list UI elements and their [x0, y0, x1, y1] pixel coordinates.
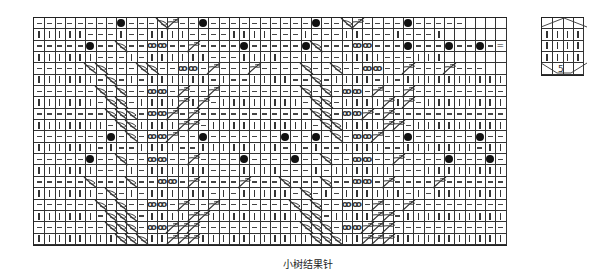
purl-symbol — [495, 109, 506, 120]
knit-symbol — [495, 165, 506, 176]
empty-cell — [495, 63, 506, 74]
purl-symbol — [495, 154, 506, 165]
purl-symbol — [495, 86, 506, 97]
purl-symbol — [495, 200, 506, 211]
purl-symbol — [495, 177, 506, 188]
knitting-chart-grid: ꝏꝏꝏꝏ=ꝏꝏꝏꝏꝏꝏꝏꝏꝏꝏꝏꝏꝏꝏꝏꝏꝏꝏꝏꝏꝏꝏꝏꝏꝏꝏꝏꝏꝏꝏꝏꝏ — [33, 17, 507, 246]
empty-cell — [495, 18, 506, 29]
knit-symbol — [495, 211, 506, 222]
knit-symbol — [495, 120, 506, 131]
empty-cell — [573, 18, 584, 29]
empty-cell — [495, 52, 506, 63]
empty-cell — [573, 63, 584, 74]
bobble-legend-grid — [541, 17, 584, 76]
purl-symbol — [495, 222, 506, 233]
knit-symbol — [495, 97, 506, 108]
knit-symbol — [495, 188, 506, 199]
purl-symbol — [495, 131, 506, 142]
knit-symbol — [495, 234, 506, 245]
knit-symbol — [573, 41, 584, 52]
equal-symbol: = — [495, 41, 506, 52]
knit-symbol — [573, 29, 584, 40]
knit-symbol — [495, 75, 506, 86]
knit-symbol — [495, 143, 506, 154]
empty-cell — [495, 29, 506, 40]
chart-caption: 小树结果针 — [0, 256, 616, 271]
knit-symbol — [573, 52, 584, 63]
